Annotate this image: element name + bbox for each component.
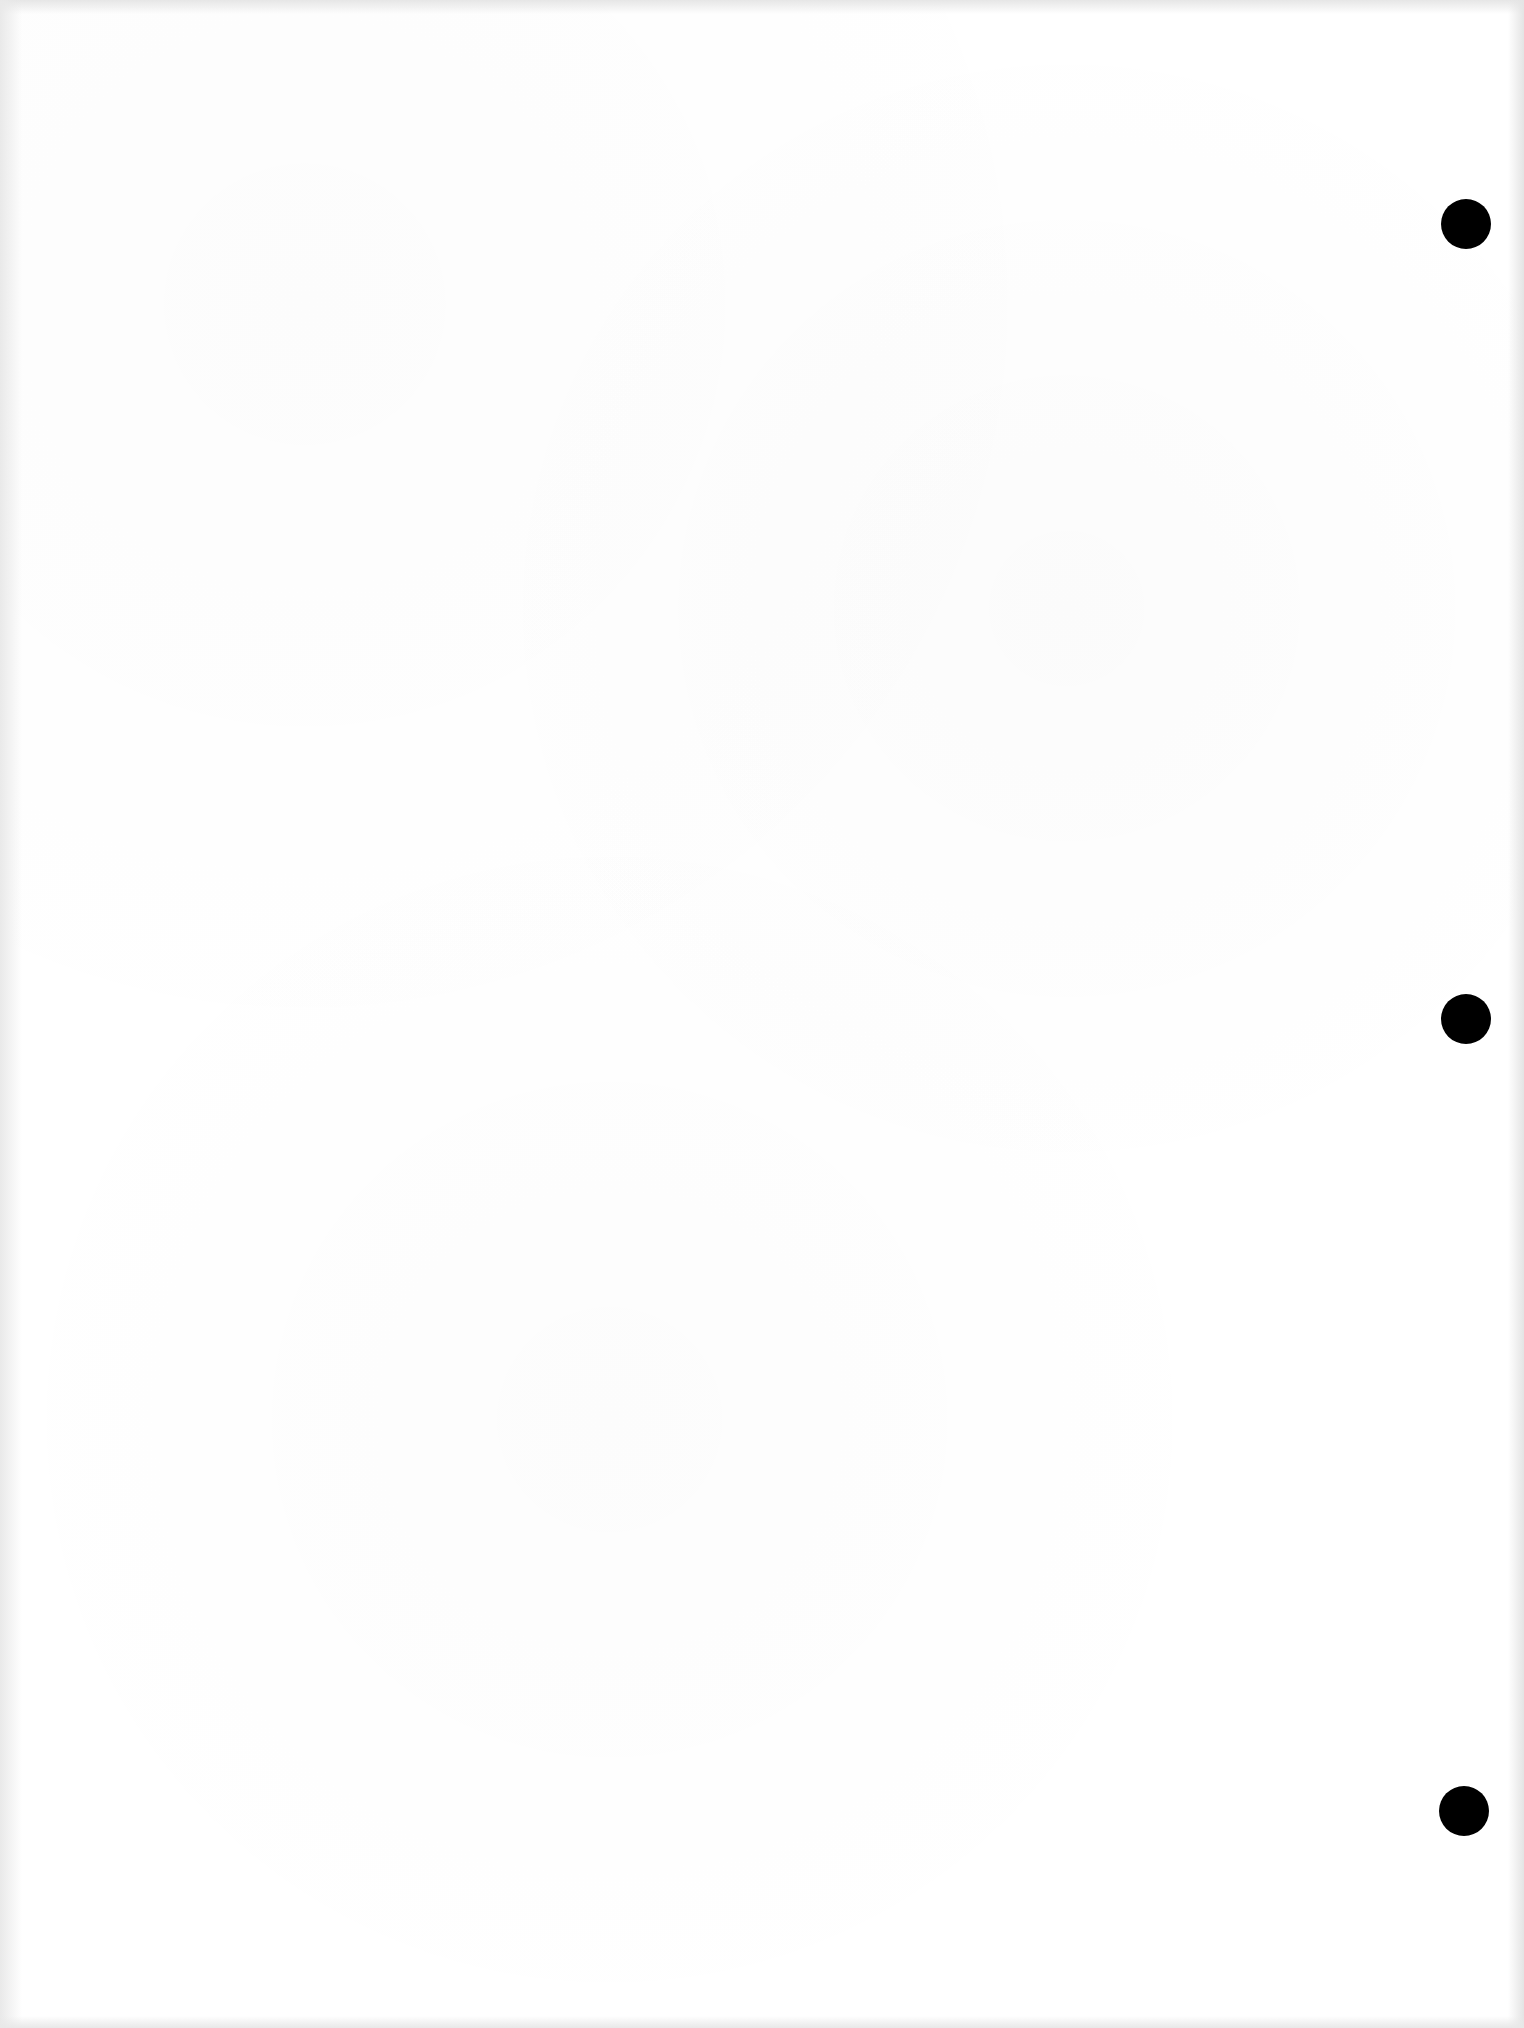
scan-edge-shadow-left xyxy=(0,0,22,2028)
punch-hole-bottom xyxy=(1439,1786,1489,1836)
scan-edge-shadow-top xyxy=(0,0,1524,14)
scanned-blank-page xyxy=(0,0,1524,2028)
scan-edge-shadow-right xyxy=(1508,0,1524,2028)
punch-hole-middle xyxy=(1441,994,1491,1044)
punch-hole-top xyxy=(1441,199,1491,249)
scan-edge-shadow-bottom xyxy=(0,2016,1524,2028)
paper-texture xyxy=(0,0,1524,2028)
